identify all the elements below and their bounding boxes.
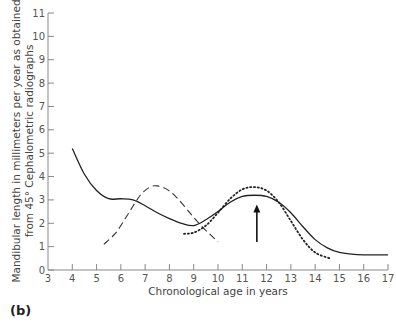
y-tick-label: 5 xyxy=(39,148,45,159)
y-tick-label: 6 xyxy=(39,124,45,135)
y-axis-title: Mandibular length in millimeters per yea… xyxy=(10,0,35,283)
x-tick-label: 12 xyxy=(260,273,273,284)
x-tick-label: 15 xyxy=(333,273,346,284)
y-axis-title-line-1: Mandibular length in millimeters per yea… xyxy=(10,0,22,283)
y-tick-label: 8 xyxy=(39,78,45,89)
annotations xyxy=(253,205,260,242)
x-tick-label: 17 xyxy=(382,273,395,284)
y-tick-label: 9 xyxy=(39,54,45,65)
arrow-up-icon xyxy=(253,205,260,213)
x-axis-title: Chronological age in years xyxy=(148,285,288,297)
y-tick-label: 11 xyxy=(32,8,45,19)
x-tick-label: 5 xyxy=(93,273,99,284)
axes: 0123456789101134567891011121314151617 xyxy=(32,8,394,285)
y-tick-label: 4 xyxy=(39,171,45,182)
x-tick-label: 3 xyxy=(45,273,51,284)
series-line-solid xyxy=(72,149,388,255)
x-tick-label: 4 xyxy=(69,273,75,284)
x-tick-label: 13 xyxy=(284,273,297,284)
x-tick-label: 16 xyxy=(357,273,370,284)
x-tick-label: 14 xyxy=(309,273,322,284)
y-tick-label: 2 xyxy=(39,218,45,229)
growth-velocity-chart: 0123456789101134567891011121314151617 Ch… xyxy=(0,0,396,323)
y-tick-label: 3 xyxy=(39,194,45,205)
series-group xyxy=(72,149,388,259)
x-tick-label: 9 xyxy=(191,273,197,284)
y-tick-label: 1 xyxy=(39,241,45,252)
x-tick-label: 11 xyxy=(236,273,249,284)
x-tick-label: 10 xyxy=(212,273,225,284)
y-axis-title-line-2: from 45° Cephalometric radiographs xyxy=(23,45,35,238)
x-tick-label: 7 xyxy=(142,273,148,284)
y-tick-label: 7 xyxy=(39,101,45,112)
x-tick-label: 6 xyxy=(118,273,124,284)
x-tick-label: 8 xyxy=(166,273,172,284)
panel-label: (b) xyxy=(10,303,31,318)
y-tick-label: 10 xyxy=(32,31,45,42)
